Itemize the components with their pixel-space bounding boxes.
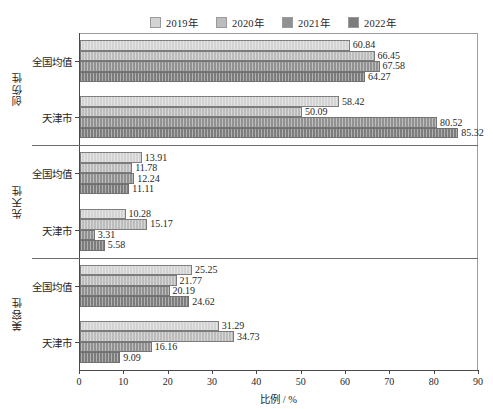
section-separator xyxy=(32,258,478,259)
x-axis-tick-label: 10 xyxy=(118,376,128,387)
bar-value-label: 50.09 xyxy=(305,107,328,117)
bar-2020年-全国均值 xyxy=(80,51,375,62)
bar-2020年-天津市 xyxy=(80,107,302,118)
bar-2019年-全国均值 xyxy=(80,152,142,163)
bar-2022年-全国均值 xyxy=(80,184,129,195)
bar-hatch-texture xyxy=(81,332,233,341)
legend-label: 2021年 xyxy=(298,15,330,30)
bar-value-label: 21.77 xyxy=(180,276,203,286)
bar-hatch-texture xyxy=(81,52,374,61)
bar-2021年-天津市 xyxy=(80,342,152,353)
x-axis-line xyxy=(79,370,478,371)
bar-value-label: 66.45 xyxy=(378,51,401,61)
bar-value-label: 60.84 xyxy=(353,40,376,50)
bar-value-label: 11.11 xyxy=(132,184,154,194)
bar-value-label: 24.62 xyxy=(192,297,215,307)
x-axis-tick xyxy=(434,370,435,374)
plot-area: 比例 / % 0102030405060708090创伤性全国均值60.8466… xyxy=(79,33,478,370)
bar-value-label: 58.42 xyxy=(342,97,365,107)
x-axis-title: 比例 / % xyxy=(79,391,478,406)
bar-value-label: 20.19 xyxy=(173,286,196,296)
legend-label: 2020年 xyxy=(232,15,264,30)
bar-hatch-texture xyxy=(81,97,338,106)
bar-hatch-texture xyxy=(81,174,133,183)
bar-value-label: 15.17 xyxy=(150,219,173,229)
bar-2019年-天津市 xyxy=(80,96,339,107)
bar-hatch-texture xyxy=(81,108,301,117)
legend-item-2020年[interactable]: 2020年 xyxy=(216,15,264,30)
bar-hatch-texture xyxy=(81,185,128,194)
bar-value-label: 10.28 xyxy=(129,209,152,219)
bar-value-label: 3.31 xyxy=(98,230,116,240)
legend-item-2021年[interactable]: 2021年 xyxy=(282,15,330,30)
bar-2021年-全国均值 xyxy=(80,286,170,297)
bar-hatch-texture xyxy=(81,118,436,127)
x-axis-tick xyxy=(123,370,124,374)
x-axis-tick xyxy=(389,370,390,374)
bar-value-label: 5.58 xyxy=(108,240,126,250)
bar-hatch-texture xyxy=(81,322,218,331)
bar-hatch-texture xyxy=(81,297,188,306)
legend-swatch-icon xyxy=(150,17,161,28)
bar-hatch-texture xyxy=(81,41,349,50)
y-axis-group-label: 天津市 xyxy=(6,334,72,349)
bar-hatch-texture xyxy=(81,231,94,240)
bar-value-label: 64.27 xyxy=(368,72,391,82)
bar-hatch-texture xyxy=(81,241,104,250)
bar-2022年-天津市 xyxy=(80,240,105,251)
bar-value-label: 11.78 xyxy=(135,163,157,173)
y-axis-group-tick xyxy=(75,61,79,62)
x-axis-tick xyxy=(79,370,80,374)
bar-value-label: 13.91 xyxy=(145,153,168,163)
bar-2019年-全国均值 xyxy=(80,40,350,51)
bar-2022年-天津市 xyxy=(80,128,458,139)
bar-hatch-texture xyxy=(81,153,141,162)
bar-2019年-全国均值 xyxy=(80,265,192,276)
x-axis-tick-label: 80 xyxy=(429,376,439,387)
bar-value-label: 80.52 xyxy=(440,118,463,128)
bar-value-label: 31.29 xyxy=(222,321,245,331)
y-axis-group-label: 天津市 xyxy=(6,222,72,237)
section-label-创伤性: 创伤性 xyxy=(10,72,25,107)
legend-label: 2019年 xyxy=(166,15,198,30)
legend-item-2022年[interactable]: 2022年 xyxy=(348,15,396,30)
legend-swatch-icon xyxy=(282,17,293,28)
plot-top-border xyxy=(79,33,478,34)
section-label-先天性: 先天性 xyxy=(10,184,25,219)
bar-hatch-texture xyxy=(81,266,191,275)
y-axis-group-label: 全国均值 xyxy=(6,278,72,293)
bar-2020年-全国均值 xyxy=(80,163,132,174)
bar-hatch-texture xyxy=(81,62,379,71)
x-axis-tick xyxy=(478,370,479,374)
bar-hatch-texture xyxy=(81,164,131,173)
bar-2019年-天津市 xyxy=(80,209,126,220)
bar-value-label: 34.73 xyxy=(237,332,260,342)
x-axis-tick-label: 50 xyxy=(296,376,306,387)
legend-label: 2022年 xyxy=(364,15,396,30)
bar-2019年-天津市 xyxy=(80,321,219,332)
bar-value-label: 12.24 xyxy=(137,174,160,184)
y-axis-group-tick xyxy=(75,342,79,343)
section-separator xyxy=(32,145,478,146)
y-axis-group-label: 天津市 xyxy=(6,110,72,125)
bar-hatch-texture xyxy=(81,287,169,296)
bar-2022年-全国均值 xyxy=(80,72,365,83)
bar-2020年-全国均值 xyxy=(80,275,177,286)
x-axis-tick xyxy=(212,370,213,374)
bar-hatch-texture xyxy=(81,129,457,138)
x-axis-tick xyxy=(168,370,169,374)
x-axis-tick-label: 70 xyxy=(384,376,394,387)
x-axis-tick xyxy=(256,370,257,374)
legend-swatch-icon xyxy=(216,17,227,28)
x-axis-tick-label: 40 xyxy=(251,376,261,387)
bar-hatch-texture xyxy=(81,210,125,219)
x-axis-tick xyxy=(301,370,302,374)
bar-hatch-texture xyxy=(81,343,151,352)
bar-2021年-天津市 xyxy=(80,230,95,241)
legend-item-2019年[interactable]: 2019年 xyxy=(150,15,198,30)
y-axis-group-tick xyxy=(75,286,79,287)
y-axis-group-tick xyxy=(75,173,79,174)
bar-hatch-texture xyxy=(81,73,364,82)
x-axis-tick-label: 90 xyxy=(473,376,483,387)
bar-2021年-全国均值 xyxy=(80,61,380,72)
